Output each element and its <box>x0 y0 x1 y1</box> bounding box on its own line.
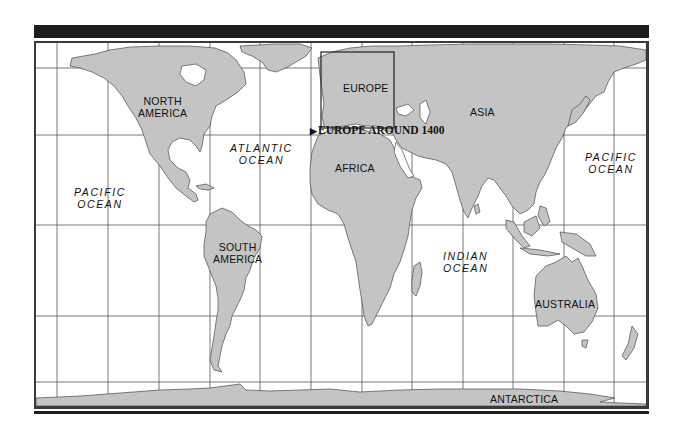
label-australia: AUSTRALIA <box>535 298 595 310</box>
bottom-rule <box>34 411 649 414</box>
land-south-america <box>204 208 262 372</box>
triangle-right-icon: ▶ <box>310 126 317 136</box>
europe-callout: ▶EUROPE AROUND 1400 <box>310 124 445 136</box>
label-south-america: SOUTH AMERICA <box>213 241 262 265</box>
label-atlantic-ocean: ATLANTIC OCEAN <box>230 142 293 166</box>
world-map-figure: NORTH AMERICA SOUTH AMERICA EUROPE AFRIC… <box>0 0 680 438</box>
label-africa: AFRICA <box>335 162 375 174</box>
callout-label: EUROPE AROUND 1400 <box>318 124 445 136</box>
map-frame <box>34 41 649 409</box>
label-antarctica: ANTARCTICA <box>490 393 558 405</box>
label-pacific-ocean-west: PACIFIC OCEAN <box>74 186 126 210</box>
label-pacific-ocean-east: PACIFIC OCEAN <box>585 151 637 175</box>
label-indian-ocean: INDIAN OCEAN <box>443 250 488 274</box>
label-asia: ASIA <box>470 106 495 118</box>
label-europe: EUROPE <box>343 82 389 94</box>
title-bar <box>34 25 649 38</box>
label-north-america: NORTH AMERICA <box>138 95 187 119</box>
land-australia <box>534 256 598 334</box>
land-north-america <box>70 46 246 202</box>
world-map-graphic <box>36 43 646 406</box>
